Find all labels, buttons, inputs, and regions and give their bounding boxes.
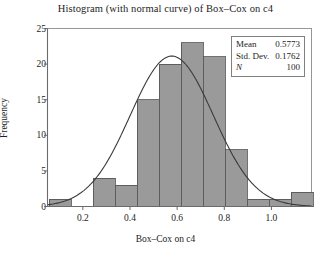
histogram-bar bbox=[93, 178, 115, 206]
stat-label-stddev: Std. Dev. bbox=[236, 51, 275, 63]
statistics-legend-box: Mean 0.5773 Std. Dev. 0.1762 N 100 bbox=[231, 36, 305, 77]
stat-value-mean: 0.5773 bbox=[275, 39, 300, 51]
stat-value-stddev: 0.1762 bbox=[275, 51, 300, 63]
histogram-bar bbox=[159, 64, 181, 206]
histogram-bar bbox=[137, 100, 159, 207]
histogram-bar bbox=[225, 150, 247, 207]
stat-row-stddev: Std. Dev. 0.1762 bbox=[236, 51, 300, 63]
histogram-bar bbox=[203, 57, 225, 207]
stat-row-n: N 100 bbox=[236, 62, 300, 74]
stat-value-n: 100 bbox=[286, 62, 300, 74]
histogram-bar bbox=[115, 185, 137, 206]
histogram-bar bbox=[247, 199, 269, 206]
stat-row-mean: Mean 0.5773 bbox=[236, 39, 300, 51]
stat-label-mean: Mean bbox=[236, 39, 263, 51]
histogram-bar bbox=[181, 43, 203, 207]
histogram-figure: Histogram (with normal curve) of Box–Cox… bbox=[0, 0, 331, 256]
stat-label-n: N bbox=[236, 62, 248, 74]
